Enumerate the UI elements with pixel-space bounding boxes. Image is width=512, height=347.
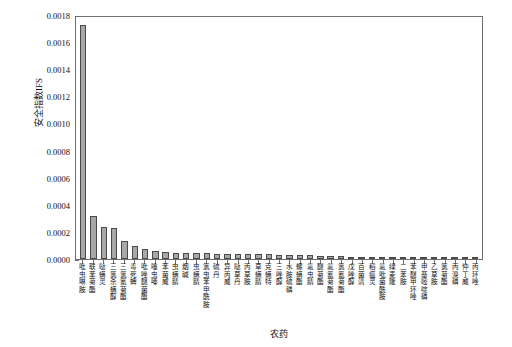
bar-slot [181,17,191,259]
bar-slot [171,17,181,259]
bar-slot [130,17,140,259]
bar-slot [470,17,480,259]
x-tick-label: 氟吡菌酰胺 [379,264,387,302]
x-tick-label-slot: 丙环唑 [471,264,481,326]
bar [121,241,127,259]
x-tick-label-slot: 虫螨腈 [170,264,180,326]
bar [162,252,168,259]
x-tick-label-slot: 醚菊酯 [315,264,325,326]
x-tick-label-slot: 氯虫苯甲酰胺 [201,264,211,326]
x-tick-label-slot: 联苯菊酯 [87,264,97,326]
bar-slot [326,17,336,259]
bar-slot [191,17,201,259]
x-tick-label: 氯氰菊酯 [337,264,345,294]
x-tick-label-slot: 毒死蜱 [129,264,139,326]
bar [307,255,313,259]
x-tick-label: 吡虫啉胺 [78,264,86,294]
bar-slot [253,17,263,259]
x-tick-label: 螺螨酯 [296,264,304,287]
bar [472,257,478,259]
x-tick-label-slot: 噻虫嗪 [150,264,160,326]
bar-slot [274,17,284,259]
bar-slot [449,17,459,259]
y-tick-label: 0.0004 [0,201,75,211]
x-tick-label: 乙草胺 [430,264,438,287]
bar-slot [150,17,160,259]
x-tick-label: 三氯氰菊酯 [120,264,128,302]
bar-slot [356,17,366,259]
x-tick-label: 哒草丹 [234,264,242,287]
bar [389,257,395,259]
x-tick-label-slot: 氯菊酯 [440,264,450,326]
x-tick-label: 三唑醇 [275,264,283,287]
x-tick-label-slot: 哒螨灵 [98,264,108,326]
x-tick-label-slot: 乙草胺 [429,264,439,326]
bar-slot [88,17,98,259]
y-tick-label: 0.0016 [0,38,75,48]
bar [317,256,323,259]
bar [358,257,364,259]
bar [410,257,416,259]
x-tick-label: 甲基嘧啶磷 [420,264,428,302]
x-tick-label: 苯菌威 [161,264,169,287]
bar-slot [418,17,428,259]
bar-slot [109,17,119,259]
bar [369,257,375,259]
x-tick-label-slot: 烟碱 [181,264,191,326]
x-tick-label-slot: 丙草胺 [243,264,253,326]
bar [276,255,282,259]
bar-series [76,17,482,259]
x-tick-label: 氯菊酯 [441,264,449,287]
x-axis-tick-labels: 吡虫啉胺联苯菊酯哒螨灵三氯杀螨醇三氯氰菊酯毒死蜱吡唑醚菌酯噻虫嗪苯菌威虫螨腈烟碱… [75,264,483,326]
bar-slot [460,17,470,259]
x-tick-label: 戊唑醇 [348,264,356,287]
bar [214,254,220,259]
x-tick-label-slot: 氟吡菌酰胺 [377,264,387,326]
x-tick-label: 醚菊酯 [316,264,324,287]
x-tick-label-slot: 苯醚甲环唑 [409,264,419,326]
bar-slot [264,17,274,259]
bar [462,257,468,259]
y-tick-label: 0.0014 [0,65,75,75]
bar [420,257,426,259]
bar-slot [346,17,356,259]
x-tick-label-slot: 氟氰菊酯 [326,264,336,326]
x-tick-label: 绿麦隆 [389,264,397,287]
x-tick-label-slot: 三氯杀螨醇 [108,264,118,326]
y-tick-mark [75,260,79,261]
bar-slot [99,17,109,259]
x-tick-label-slot: 氟虫腈 [305,264,315,326]
x-tick-label-slot: 水胺硫磷 [284,264,294,326]
x-tick-label-slot: 虫螨腈 [191,264,201,326]
x-tick-label-slot: 吡唑醚菌酯 [139,264,149,326]
figure: 安全指数IFS 0.00000.00020.00040.00060.00080.… [0,0,512,347]
x-tick-label: 异丙威 [223,264,231,287]
x-tick-label-slot: 绿麦隆 [388,264,398,326]
bar [245,254,251,259]
bar-slot [367,17,377,259]
bar [297,255,303,259]
x-tick-label: 毒死蜱 [130,264,138,287]
x-tick-label: 二苯胺 [399,264,407,287]
bar [255,254,261,259]
y-tick-label: 0.0018 [0,11,75,21]
x-tick-label: 噻虫嗪 [151,264,159,287]
bar [142,249,148,259]
bar [80,25,86,260]
bar [90,216,96,259]
bar [101,227,107,259]
bar-slot [119,17,129,259]
x-tick-label-slot: 吡虫啉胺 [77,264,87,326]
bar [193,253,199,259]
x-axis-title: 农药 [75,327,483,340]
bar-slot [429,17,439,259]
bar-slot [161,17,171,259]
x-tick-label-slot: 二苯胺 [398,264,408,326]
bar [224,254,230,259]
x-tick-label-slot: 氯氰菊酯 [336,264,346,326]
bar-slot [377,17,387,259]
x-tick-label: 氟氰菊酯 [327,264,335,294]
bar-slot [212,17,222,259]
x-tick-label-slot: 克螨特 [263,264,273,326]
x-tick-label-slot: 丙溴磷 [450,264,460,326]
